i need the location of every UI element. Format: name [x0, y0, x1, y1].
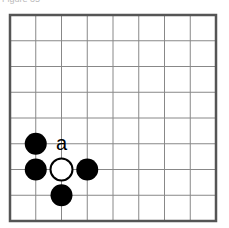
black-stone: [25, 133, 47, 155]
point-label: a: [56, 132, 68, 154]
white-stone: [51, 159, 73, 181]
go-board: a: [0, 0, 229, 228]
black-stone: [76, 159, 98, 181]
black-stone: [51, 184, 73, 206]
black-stone: [25, 159, 47, 181]
